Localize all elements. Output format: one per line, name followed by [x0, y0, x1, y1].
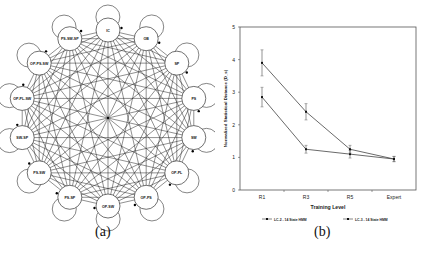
data-marker [393, 158, 395, 160]
arrowhead-icon [16, 124, 18, 126]
y-tick-label: 0 [232, 187, 235, 193]
x-tick-label: R3 [303, 194, 310, 200]
state-node-label: SP [174, 62, 179, 66]
state-node-label: IC [106, 29, 110, 33]
arrowhead-icon [28, 162, 30, 164]
legend-entry: LC-3 - 14 State HMM [343, 218, 388, 222]
x-axis-label: Training Level [311, 204, 346, 210]
arrowhead-icon [93, 207, 95, 209]
state-node-label: OP-PL [171, 171, 183, 175]
data-marker [305, 148, 307, 150]
state-node: OP-PS [134, 185, 158, 209]
arrowhead-icon [134, 204, 136, 206]
state-transition-graph: ICOBSPPSSWOP-PLOP-PSOP-SWPS-SPPS-SWSW-SP… [0, 0, 215, 255]
caption-a: (a) [95, 224, 111, 240]
state-node: SW [182, 126, 206, 150]
x-tick-label: R5 [347, 194, 354, 200]
caption-b: (b) [314, 224, 330, 240]
state-node-label: PS-SP [64, 196, 75, 200]
state-node-label: PS-SW [33, 171, 45, 175]
state-node: PS-SP [58, 185, 82, 209]
transition-edge [39, 63, 194, 137]
state-node: OP-PL [165, 161, 189, 185]
series-1 [261, 87, 396, 161]
legend-marker-icon [266, 218, 268, 220]
arrowhead-icon [56, 192, 58, 194]
arrowhead-icon [169, 183, 171, 185]
figure-b-line-chart: 012345R1R3R5ExpertTraining LevelNormaliz… [215, 0, 429, 255]
state-node-label: SW [191, 136, 197, 140]
legend-marker-icon [347, 218, 349, 220]
state-node-label: PS-SW-SP [61, 37, 79, 41]
data-marker [349, 148, 351, 150]
series-2 [261, 50, 396, 162]
state-node: OB [134, 27, 158, 51]
data-marker [261, 62, 263, 64]
statistical-distance-chart: 012345R1R3R5ExpertTraining LevelNormaliz… [215, 0, 429, 255]
arrowhead-icon [158, 42, 160, 44]
legend-label: LC-2 - 14 State HMM [274, 218, 307, 222]
state-node: PS-SW-SP [58, 27, 82, 51]
state-node: SP [165, 51, 189, 75]
state-node: SW-SP [10, 126, 34, 150]
center-point [107, 117, 109, 119]
state-node: IC [96, 18, 120, 42]
arrowhead-icon [80, 30, 82, 32]
state-node: PS-SW [27, 161, 51, 185]
y-tick-label: 5 [232, 24, 235, 30]
arrowhead-icon [22, 84, 24, 86]
figure-a-state-diagram: ICOBSPPSSWOP-PLOP-PSOP-SWPS-SPPS-SWSW-SP… [0, 0, 215, 255]
state-node-label: OP-PS-SW [30, 62, 49, 66]
y-tick-label: 4 [232, 57, 235, 63]
state-node-label: SW-SP [16, 136, 28, 140]
data-marker [349, 153, 351, 155]
y-tick-label: 2 [232, 122, 235, 128]
y-axis-label: Normalized Statistical Distance (D_s) [223, 69, 228, 147]
state-node-label: PS [191, 97, 196, 101]
legend-label: LC-3 - 14 State HMM [355, 218, 388, 222]
state-node: OP-SW [96, 194, 120, 218]
data-marker [305, 111, 307, 113]
arrowhead-icon [45, 50, 47, 52]
state-node: PS [182, 86, 206, 110]
transition-edge [22, 98, 177, 172]
arrowhead-icon [120, 27, 122, 29]
arrowhead-icon [198, 110, 200, 112]
y-tick-label: 3 [232, 89, 235, 95]
legend-entry: LC-2 - 14 State HMM [262, 218, 307, 222]
arrowhead-icon [186, 71, 188, 73]
arrowhead-icon [192, 150, 194, 152]
series-line [262, 63, 394, 159]
state-node: OP-PS-SW [27, 51, 51, 75]
state-node-label: OP-PL-SW [13, 97, 32, 101]
data-marker [261, 96, 263, 98]
state-node-label: OP-PS [141, 196, 153, 200]
state-node-label: OB [143, 37, 149, 41]
state-node: OP-PL-SW [10, 86, 34, 110]
x-tick-label: R1 [259, 194, 266, 200]
y-tick-label: 1 [232, 154, 235, 160]
state-node-label: OP-SW [102, 205, 115, 209]
x-tick-label: Expert [387, 194, 402, 200]
plot-frame [240, 27, 416, 190]
series-line [262, 97, 394, 159]
